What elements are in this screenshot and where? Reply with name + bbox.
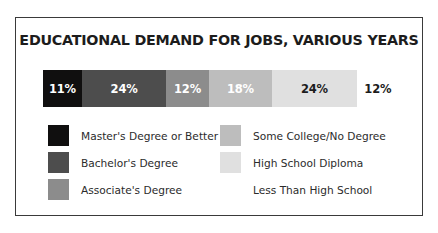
legend-item-less-than-high-school: Less Than High School — [220, 176, 410, 203]
chart-legend: Master's Degree or Better Bachelor's Deg… — [16, 122, 422, 212]
infographic-canvas: EDUCATIONAL DEMAND FOR JOBS, VARIOUS YEA… — [0, 0, 438, 233]
legend-item-label: High School Diploma — [253, 158, 363, 169]
bar-segment-less-than-high-school: 12% — [357, 70, 399, 107]
legend-item-label: Master's Degree or Better — [81, 131, 218, 142]
legend-column-left: Master's Degree or Better Bachelor's Deg… — [48, 122, 223, 203]
legend-swatch-icon — [220, 179, 241, 200]
bar-segment-associates: 12% — [166, 70, 208, 107]
legend-item-bachelors: Bachelor's Degree — [48, 149, 223, 176]
bar-segment-label: 18% — [227, 84, 254, 96]
chart-card: EDUCATIONAL DEMAND FOR JOBS, VARIOUS YEA… — [15, 17, 423, 216]
legend-item-some-college: Some College/No Degree — [220, 122, 410, 149]
legend-swatch-icon — [48, 125, 69, 146]
legend-item-label: Associate's Degree — [81, 185, 182, 196]
bar-segment-label: 24% — [301, 84, 328, 96]
legend-item-associates: Associate's Degree — [48, 176, 223, 203]
legend-swatch-icon — [48, 179, 69, 200]
bar-segment-label: 12% — [174, 84, 201, 96]
legend-item-label: Bachelor's Degree — [81, 158, 178, 169]
legend-swatch-icon — [220, 125, 241, 146]
legend-swatch-icon — [48, 152, 69, 173]
legend-item-label: Some College/No Degree — [253, 131, 386, 142]
legend-item-label: Less Than High School — [253, 185, 372, 196]
bar-segment-bachelors: 24% — [82, 70, 167, 107]
legend-item-masters: Master's Degree or Better — [48, 122, 223, 149]
bar-segment-label: 12% — [364, 84, 391, 96]
legend-swatch-icon — [220, 152, 241, 173]
bar-segment-high-school-diploma: 24% — [272, 70, 357, 107]
bar-segment-label: 24% — [111, 84, 138, 96]
bar-segment-some-college: 18% — [209, 70, 272, 107]
legend-column-right: Some College/No Degree High School Diplo… — [220, 122, 410, 203]
stacked-bar-chart: 11% 24% 12% 18% 24% 12% — [43, 70, 399, 107]
bar-segment-masters: 11% — [43, 70, 82, 107]
legend-item-high-school-diploma: High School Diploma — [220, 149, 410, 176]
page-title: EDUCATIONAL DEMAND FOR JOBS, VARIOUS YEA… — [16, 32, 422, 48]
bar-segment-label: 11% — [49, 84, 76, 96]
